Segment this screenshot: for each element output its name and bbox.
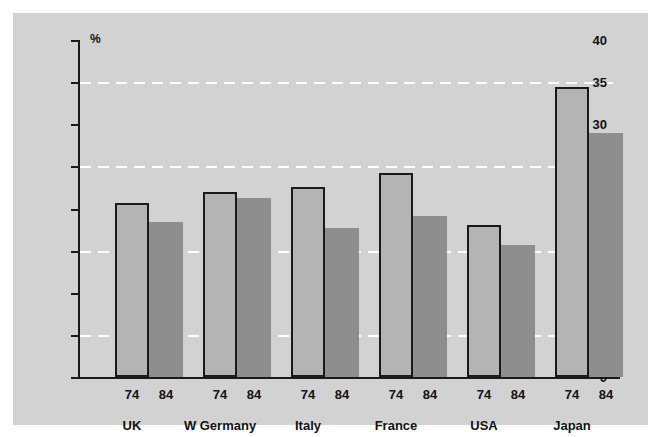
y-tick-10 (71, 293, 78, 295)
year-label-wgermany-84: 84 (237, 388, 271, 401)
plot-area: 40 35 30 25 20 15 10 5 0 % 74 84 U (78, 40, 620, 377)
year-label-france-74: 74 (379, 388, 413, 401)
y-tick-label-40: 40 (593, 34, 607, 47)
year-label-usa-84: 84 (501, 388, 535, 401)
y-tick-5 (71, 335, 78, 337)
chart-figure: 40 35 30 25 20 15 10 5 0 % 74 84 U (0, 0, 661, 437)
category-label-uk: UK (99, 419, 165, 432)
y-axis-line (78, 40, 80, 378)
category-label-italy: Italy (275, 419, 341, 432)
year-label-france-84: 84 (413, 388, 447, 401)
year-label-wgermany-74: 74 (203, 388, 237, 401)
x-axis-line (78, 377, 620, 379)
bar-uk-74 (115, 203, 149, 377)
year-label-usa-74: 74 (467, 388, 501, 401)
bar-japan-84 (589, 133, 623, 377)
y-tick-label-35: 35 (593, 76, 607, 89)
y-tick-25 (71, 166, 78, 168)
bar-japan-74 (555, 87, 589, 377)
category-label-japan: Japan (539, 419, 605, 432)
y-tick-15 (71, 251, 78, 253)
bar-wgermany-84 (237, 198, 271, 378)
bar-france-84 (413, 216, 447, 377)
y-tick-20 (71, 209, 78, 211)
y-tick-0 (71, 377, 78, 379)
y-tick-40 (71, 40, 78, 42)
bar-italy-74 (291, 187, 325, 377)
category-label-usa: USA (451, 419, 517, 432)
year-label-uk-84: 84 (149, 388, 183, 401)
y-tick-label-30: 30 (593, 118, 607, 131)
gridline-25 (80, 166, 620, 168)
gridline-35 (80, 82, 620, 84)
year-label-japan-84: 84 (589, 388, 623, 401)
category-label-france: France (363, 419, 429, 432)
bar-usa-84 (501, 245, 535, 377)
year-label-uk-74: 74 (115, 388, 149, 401)
bar-italy-84 (325, 228, 359, 377)
y-tick-35 (71, 82, 78, 84)
bar-usa-74 (467, 225, 501, 377)
bar-uk-84 (149, 222, 183, 377)
y-tick-30 (71, 124, 78, 126)
bar-france-74 (379, 173, 413, 377)
year-label-italy-84: 84 (325, 388, 359, 401)
category-label-wgermany: W Germany (182, 419, 258, 432)
chart-panel: 40 35 30 25 20 15 10 5 0 % 74 84 U (13, 13, 648, 425)
bar-wgermany-74 (203, 192, 237, 377)
y-axis-unit-label: % (90, 32, 101, 46)
year-label-italy-74: 74 (291, 388, 325, 401)
year-label-japan-74: 74 (555, 388, 589, 401)
